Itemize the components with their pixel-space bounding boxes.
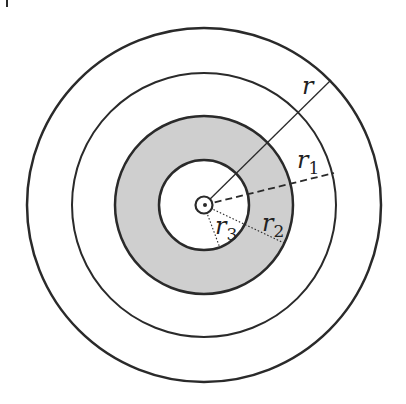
- center-point: [203, 203, 207, 207]
- label-r: r: [302, 72, 315, 100]
- label-r1: r1: [297, 146, 319, 178]
- concentric-circles-diagram: r r1 r2 r3: [0, 0, 406, 404]
